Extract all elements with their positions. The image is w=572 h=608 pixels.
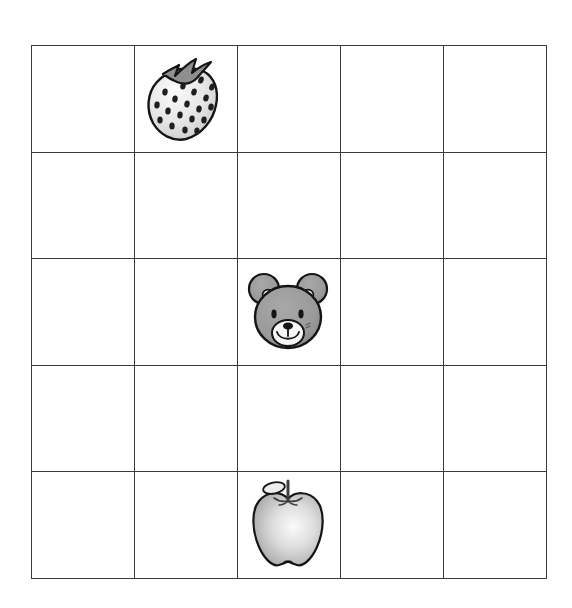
grid-cell-r1c2[interactable]: Strawberry	[135, 46, 238, 153]
grid-cell-r1c4[interactable]	[341, 46, 444, 153]
cell-content-r1c1	[32, 47, 132, 151]
grid-cell-r5c2[interactable]	[135, 472, 238, 579]
cell-content-r1c4	[341, 47, 441, 151]
grid-cell-r5c5[interactable]	[444, 472, 547, 579]
grid-cell-r1c5[interactable]	[444, 46, 547, 153]
grid-cell-r4c1[interactable]	[32, 365, 135, 472]
cell-content-r1c5	[444, 47, 544, 151]
cell-content-r5c2	[135, 473, 235, 577]
picture-grid: Picture Grid Worksheet Strawberry	[31, 45, 541, 573]
grid-cell-r3c1[interactable]	[32, 259, 135, 366]
grid-cell-r2c2[interactable]	[135, 152, 238, 259]
grid-cell-r5c1[interactable]	[32, 472, 135, 579]
grid-cell-r2c1[interactable]	[32, 152, 135, 259]
cell-content-r2c2	[135, 153, 235, 257]
grid-cell-r4c5[interactable]	[444, 365, 547, 472]
cell-content-r3c2	[135, 260, 235, 364]
grid-cell-r4c2[interactable]	[135, 365, 238, 472]
grid-cell-r3c4[interactable]	[341, 259, 444, 366]
grid-cell-r1c3[interactable]	[238, 46, 341, 153]
cell-content-r4c5	[444, 367, 544, 471]
cell-content-r3c3: Teddy bear face	[238, 260, 338, 364]
cell-content-r5c1	[32, 473, 132, 577]
cell-content-r4c3	[238, 367, 338, 471]
cell-content-r1c3	[238, 47, 338, 151]
table-row: Strawberry	[32, 46, 547, 153]
cell-content-r2c4	[341, 153, 441, 257]
cell-content-r3c4	[341, 260, 441, 364]
cell-content-r3c1	[32, 260, 132, 364]
cell-content-r5c4	[341, 473, 441, 577]
table-row	[32, 365, 547, 472]
grid-cell-r4c3[interactable]	[238, 365, 341, 472]
cell-content-r4c1	[32, 367, 132, 471]
grid-table: Strawberry	[31, 45, 547, 579]
cell-content-r5c5	[444, 473, 544, 577]
grid-cell-r2c4[interactable]	[341, 152, 444, 259]
cell-content-r1c2: Strawberry	[135, 47, 235, 151]
cell-content-r2c1	[32, 153, 132, 257]
table-row: Apple	[32, 472, 547, 579]
grid-cell-r3c2[interactable]	[135, 259, 238, 366]
cell-content-r5c3: Apple	[238, 473, 338, 577]
grid-cell-r4c4[interactable]	[341, 365, 444, 472]
grid-cell-r3c3[interactable]: Teddy bear face	[238, 259, 341, 366]
apple-icon	[247, 477, 329, 573]
grid-cell-r5c4[interactable]	[341, 472, 444, 579]
cell-content-r3c5	[444, 260, 544, 364]
cell-content-r2c5	[444, 153, 544, 257]
strawberry-icon	[141, 51, 229, 147]
bear-face-icon	[244, 266, 332, 358]
cell-content-r4c2	[135, 367, 235, 471]
cell-content-r2c3	[238, 153, 338, 257]
grid-cell-r1c1[interactable]	[32, 46, 135, 153]
grid-cell-r2c3[interactable]	[238, 152, 341, 259]
table-row: Teddy bear face	[32, 259, 547, 366]
table-row	[32, 152, 547, 259]
grid-cell-r2c5[interactable]	[444, 152, 547, 259]
cell-content-r4c4	[341, 367, 441, 471]
grid-cell-r3c5[interactable]	[444, 259, 547, 366]
grid-cell-r5c3[interactable]: Apple	[238, 472, 341, 579]
grid-body: Strawberry	[32, 46, 547, 579]
